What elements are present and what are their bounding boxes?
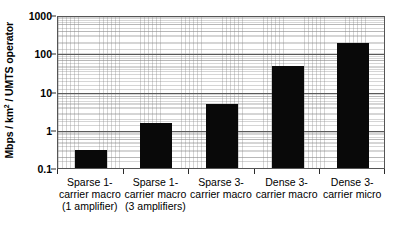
minor-gridline: [58, 22, 384, 23]
x-axis-category-label-line: Sparse 3-: [189, 176, 253, 188]
minor-gridline: [58, 43, 384, 44]
minor-gridline: [58, 81, 384, 82]
x-axis-category-labels: Sparse 1-carrier macro(1 amplifier)Spars…: [57, 176, 385, 226]
x-axis-tick-mark: [319, 169, 320, 174]
minor-gridline: [58, 24, 384, 25]
x-axis-tick-mark: [123, 169, 124, 174]
minor-gridline: [58, 20, 384, 21]
y-axis-tick-label: 100: [34, 49, 52, 60]
x-axis-category-label-line: carrier macro: [124, 188, 188, 200]
y-axis-title-post: / UMTS operator: [3, 22, 15, 104]
y-axis-tick-label: 0.1: [37, 164, 52, 175]
x-axis-category-label-line: Sparse 1-: [58, 176, 122, 188]
y-axis-title-text: Mbps / km2 / UMTS operator: [4, 22, 15, 159]
x-axis-category-label-line: carrier macro: [189, 188, 253, 200]
x-axis-category-label-line: Dense 3-: [320, 176, 384, 188]
x-axis-category-label: Sparse 1-carrier macro(3 amplifiers): [123, 176, 189, 226]
y-axis-tick-label: 1000: [29, 11, 52, 22]
x-axis-category-label: Dense 3-carrier micro: [319, 176, 385, 226]
minor-gridline: [58, 28, 384, 29]
x-axis-category-label: Dense 3-carrier macro: [254, 176, 320, 226]
y-axis-title-pre: Mbps / km: [3, 108, 15, 158]
y-axis-tick-labels: 10001001010.1: [16, 0, 56, 180]
x-axis-category-label: Sparse 3-carrier macro: [188, 176, 254, 226]
y-axis-title-superscript: 2: [2, 104, 9, 108]
x-axis-tick-mark: [188, 169, 189, 174]
x-axis-category-label-line: carrier micro: [320, 188, 384, 200]
minor-gridline: [58, 18, 384, 19]
minor-gridline: [58, 58, 384, 59]
minor-gridline: [58, 74, 384, 75]
plot-area: [57, 16, 385, 169]
x-axis-tick-marks: [57, 169, 385, 175]
minor-gridline: [58, 96, 384, 97]
minor-gridline: [58, 101, 384, 102]
x-axis-tick-mark: [57, 169, 58, 174]
x-axis-category-label-line: Dense 3-: [255, 176, 319, 188]
minor-gridline: [58, 63, 384, 64]
x-axis-tick-mark: [384, 169, 385, 174]
minor-gridline: [58, 36, 384, 37]
minor-gridline: [58, 31, 384, 32]
y-axis-tick-mark: [51, 16, 56, 17]
x-axis-category-label-line: carrier macro: [255, 188, 319, 200]
minor-gridline: [58, 98, 384, 99]
bar: [75, 150, 107, 168]
y-axis-tick-mark: [51, 169, 56, 170]
minor-gridline: [58, 66, 384, 67]
x-axis-category-label: Sparse 1-carrier macro(1 amplifier): [57, 176, 123, 226]
minor-gridline: [58, 94, 384, 95]
bar: [140, 123, 172, 168]
minor-gridline: [58, 69, 384, 70]
x-axis-tick-mark: [254, 169, 255, 174]
x-axis-category-label-line: carrier macro: [58, 188, 122, 200]
bar: [206, 104, 238, 168]
bar: [272, 66, 304, 168]
x-axis-category-label-line: (1 amplifier): [58, 200, 122, 212]
bar: [337, 43, 369, 168]
minor-gridline: [58, 60, 384, 61]
y-axis-tick-mark: [51, 92, 56, 93]
x-axis-category-label-line: Sparse 1-: [124, 176, 188, 188]
x-axis-category-label-line: (3 amplifiers): [124, 200, 188, 212]
y-axis-tick-mark: [51, 130, 56, 131]
minor-gridline: [58, 56, 384, 57]
bar-chart-figure: Mbps / km2 / UMTS operator 10001001010.1…: [0, 0, 401, 226]
y-axis-tick-mark: [51, 54, 56, 55]
